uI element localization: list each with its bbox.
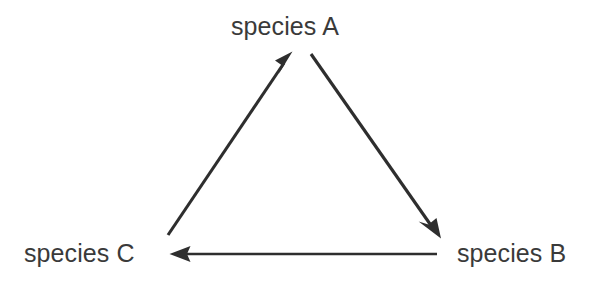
edge-a-to-b (311, 54, 441, 239)
node-label-species-b: species B (457, 241, 566, 266)
edge-c-to-a-line (168, 63, 284, 235)
edge-a-to-b-line (311, 54, 430, 224)
node-label-species-c: species C (24, 241, 135, 266)
edge-b-to-c (170, 246, 438, 262)
node-label-species-a: species A (231, 14, 339, 39)
species-cycle-diagram: species A species C species B (0, 0, 596, 287)
edge-c-to-a (168, 52, 293, 236)
